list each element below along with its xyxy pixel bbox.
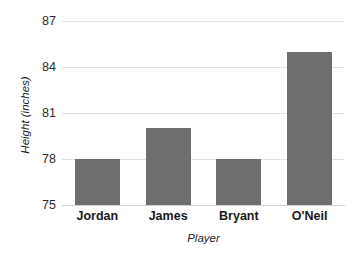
y-axis-tick-labels: 7578818487 <box>8 21 56 205</box>
y-tick-label: 81 <box>12 107 56 119</box>
bar <box>75 159 120 205</box>
plot-area <box>62 21 345 205</box>
x-axis-tick-labels: JordanJamesBryantO'Neil <box>62 208 345 228</box>
x-tick-label: Bryant <box>204 208 275 224</box>
y-tick-label: 75 <box>12 199 56 211</box>
bar <box>216 159 261 205</box>
bar <box>287 52 332 205</box>
x-axis-title: Player <box>62 232 345 244</box>
gridline-75 <box>62 205 345 206</box>
x-tick-label: James <box>133 208 204 224</box>
y-tick-label: 78 <box>12 153 56 165</box>
bar-slot <box>146 21 191 205</box>
bar-slot <box>75 21 120 205</box>
y-tick-label: 84 <box>12 61 56 73</box>
x-tick-label: O'Neil <box>274 208 345 224</box>
bar-chart-figure: Height (inches) 7578818487 JordanJamesBr… <box>0 0 360 275</box>
bar-slot <box>287 21 332 205</box>
bars-group <box>62 21 345 205</box>
y-tick-label: 87 <box>12 15 56 27</box>
bar-slot <box>216 21 261 205</box>
x-tick-label: Jordan <box>62 208 133 224</box>
bar <box>146 128 191 205</box>
